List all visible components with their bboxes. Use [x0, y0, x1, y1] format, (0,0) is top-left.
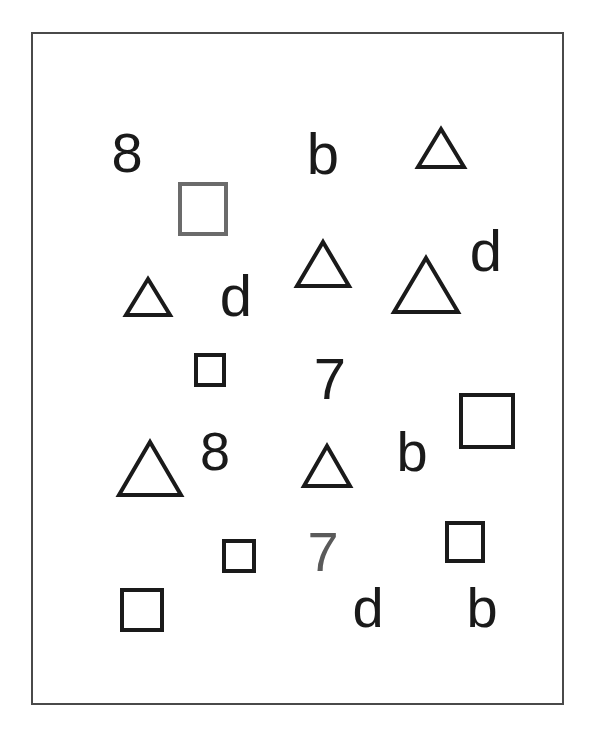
stimulus-item-triangle-triangle — [302, 444, 352, 488]
triangle-icon — [392, 256, 460, 314]
stimulus-item-glyph-7: 7 — [303, 524, 343, 580]
stimulus-item-square-square — [445, 521, 485, 563]
stimulus-item-triangle-triangle — [117, 440, 183, 497]
stimulus-item-square-square — [178, 182, 228, 236]
stimulus-item-triangle-triangle — [416, 127, 466, 169]
triangle-icon — [295, 240, 351, 288]
stimulus-item-glyph-7: 7 — [310, 350, 350, 408]
stimulus-item-glyph-b: b — [303, 125, 343, 181]
stimulus-item-triangle-triangle — [392, 256, 460, 314]
stimulus-item-square-square — [222, 539, 256, 573]
stimulus-item-glyph-b: b — [392, 424, 432, 480]
stimulus-item-glyph-8: 8 — [195, 424, 235, 478]
stimulus-item-glyph-d: d — [466, 222, 506, 280]
triangle-icon — [117, 440, 183, 497]
stimulus-item-glyph-b: b — [462, 580, 502, 636]
stimulus-item-square-square — [120, 588, 164, 632]
stimulus-item-square-square — [459, 393, 515, 449]
stimulus-frame: 8bdd78b7db — [31, 32, 564, 705]
stimulus-item-triangle-triangle — [295, 240, 351, 288]
stimulus-item-glyph-d: d — [216, 267, 256, 325]
stimulus-item-glyph-d: d — [348, 580, 388, 636]
triangle-icon — [302, 444, 352, 488]
triangle-icon — [416, 127, 466, 169]
stimulus-item-square-square — [194, 353, 226, 387]
stimulus-item-glyph-8: 8 — [104, 125, 150, 181]
stimulus-item-triangle-triangle — [124, 277, 172, 317]
triangle-icon — [124, 277, 172, 317]
